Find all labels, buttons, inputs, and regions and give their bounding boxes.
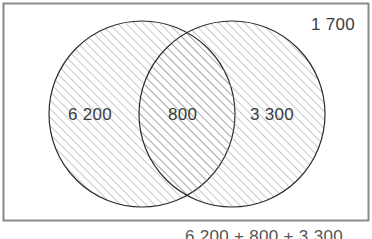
region-label-outside: 1 700 [311,16,355,33]
region-label-intersection: 800 [168,106,197,123]
set-circle-right [139,21,325,207]
region-label-left-only: 6 200 [68,106,112,123]
sum-expression: 6 200 + 800 + 3 300 [185,228,343,239]
region-label-right-only: 3 300 [250,106,294,123]
venn-diagram-figure: 6 200 800 3 300 1 700 6 200 + 800 + 3 30… [0,0,372,239]
